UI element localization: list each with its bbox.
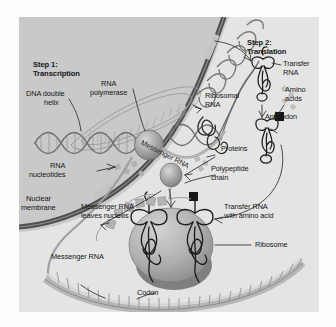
amino-acids-label-2: acids [285,95,302,104]
diagram-panel: Step 1: Transcription RNA polymerase DNA… [19,17,319,312]
nuclear-membrane-label-2: membrane [21,204,56,213]
rna-nucleotides-label-2: nucleotides [29,171,65,180]
ribosomal-rna-label-2: RNA [205,101,220,110]
codon-label: Codon [137,289,158,298]
dna-helix-label-2: helix [44,99,59,108]
protein-synthesis-figure: Step 1: Transcription RNA polymerase DNA… [0,0,336,327]
step1-subheading: Transcription [33,70,80,79]
mrna-leaves-label-2: leaves nucleus [81,212,129,221]
proteins-label: Proteins [221,145,247,154]
transfer-rna-label-2: RNA [283,69,298,78]
trna-amino-label-2: with amino acid [224,212,273,221]
anticodon-label: Anticodon [265,113,297,122]
ribosome-label: Ribosome [255,241,287,250]
messenger-rna-bottom-label: Messenger RNA [51,253,104,262]
rna-polymerase-label-2: polymerase [90,89,127,98]
polypeptide-label-2: chain [211,174,228,183]
amino-acid-marker-ribosome [189,192,198,201]
step2-subheading: Translation [247,48,286,57]
